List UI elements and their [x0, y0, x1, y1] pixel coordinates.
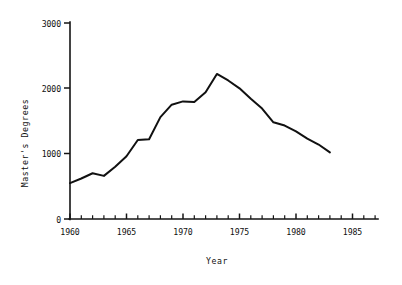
x-tick-label-1970: 1970 [173, 227, 192, 237]
line-chart: 3000 2000 1000 0 1960 1965 1970 1975 198… [0, 0, 402, 285]
y-tick-label-3000: 3000 [42, 19, 61, 29]
series-line-masters-degrees [70, 74, 330, 183]
x-tick-label-1960: 1960 [60, 227, 79, 237]
chart-page: 3000 2000 1000 0 1960 1965 1970 1975 198… [0, 0, 402, 285]
y-axis-title: Master's Degrees [20, 99, 30, 187]
x-axis-title: Year [206, 256, 228, 266]
x-tick-label-1980: 1980 [286, 227, 305, 237]
x-tick-label-1985: 1985 [343, 227, 362, 237]
y-tick-label-2000: 2000 [42, 84, 61, 94]
y-tick-label-1000: 1000 [42, 149, 61, 159]
x-tick-label-1965: 1965 [117, 227, 136, 237]
y-tick-label-0: 0 [56, 215, 61, 225]
x-major-ticks [70, 214, 353, 220]
x-tick-label-1975: 1975 [230, 227, 249, 237]
